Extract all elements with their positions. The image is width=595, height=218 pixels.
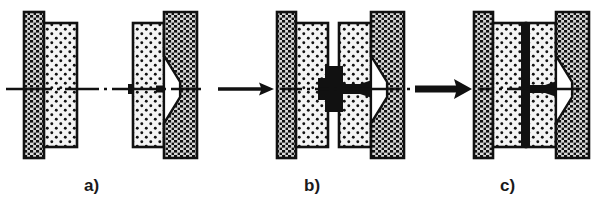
hatched-clamp-plate: [24, 12, 44, 158]
hatched-clamp-plate: [474, 12, 493, 158]
panel-a-left-clamp: [24, 12, 44, 158]
dotted-die-block: [133, 23, 164, 147]
panel-label-b: b): [304, 176, 320, 196]
panel-a-right-die: [133, 23, 164, 147]
thin-weld-seam: [521, 24, 530, 146]
hatched-clamp-plate: [277, 12, 296, 158]
panel-a-left-die: [44, 23, 77, 147]
panel-a-right-clamp: [164, 12, 197, 158]
dotted-die-block: [44, 23, 77, 147]
panel-label-a: a): [84, 176, 99, 196]
panel-label-c: c): [500, 176, 515, 196]
